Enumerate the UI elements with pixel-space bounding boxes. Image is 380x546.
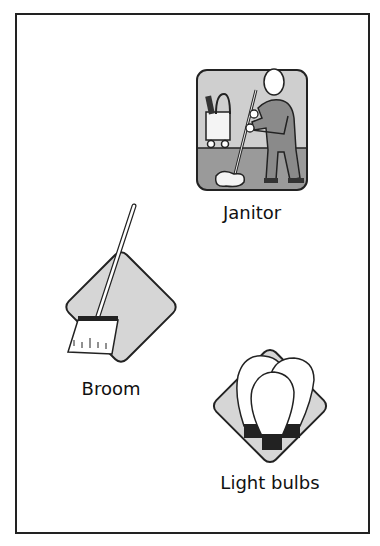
card-label: Light bulbs	[200, 472, 340, 493]
card-label: Janitor	[196, 202, 308, 223]
janitor-mopping-icon	[196, 68, 308, 193]
light-bulbs-icon	[200, 336, 340, 476]
card-broom[interactable]: Broom	[46, 202, 186, 402]
card-janitor[interactable]: Janitor	[196, 68, 308, 230]
broom-icon	[46, 202, 186, 377]
card-light-bulbs[interactable]: Light bulbs	[200, 336, 340, 506]
card-label: Broom	[46, 378, 176, 399]
